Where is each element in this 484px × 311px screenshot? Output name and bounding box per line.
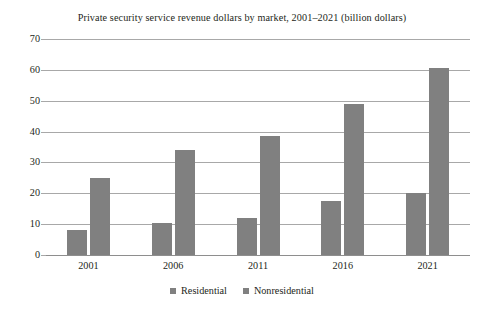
bar-group-2006 — [152, 39, 195, 255]
y-axis: 010203040506070 — [0, 39, 40, 255]
bar-nonresidential-2011 — [260, 136, 280, 255]
legend-item-nonresidential[interactable]: Nonresidential — [243, 286, 314, 296]
legend-swatch-icon — [170, 288, 176, 294]
bar-nonresidential-2021 — [429, 68, 449, 255]
legend-label: Residential — [181, 286, 227, 296]
bar-nonresidential-2016 — [344, 104, 364, 255]
x-tick-label-2006: 2006 — [133, 260, 213, 271]
y-tick-mark — [41, 224, 46, 225]
bar-group-2011 — [237, 39, 280, 255]
y-tick-mark — [41, 162, 46, 163]
y-tick-label: 60 — [6, 65, 40, 75]
gridline-0 — [46, 255, 470, 256]
legend-swatch-icon — [243, 288, 249, 294]
bar-group-2016 — [321, 39, 364, 255]
bar-residential-2016 — [321, 201, 341, 255]
bar-group-2021 — [406, 39, 449, 255]
bar-group-2001 — [67, 39, 110, 255]
x-tick-label-2001: 2001 — [48, 260, 128, 271]
chart-title: Private security service revenue dollars… — [0, 12, 484, 23]
y-tick-label: 20 — [6, 188, 40, 198]
bar-nonresidential-2001 — [90, 178, 110, 255]
y-tick-mark — [41, 70, 46, 71]
x-tick-label-2021: 2021 — [388, 260, 468, 271]
plot-area — [46, 39, 470, 255]
y-tick-label: 30 — [6, 157, 40, 167]
bar-residential-2006 — [152, 223, 172, 255]
bar-nonresidential-2006 — [175, 150, 195, 255]
bar-chart: Private security service revenue dollars… — [0, 0, 484, 311]
bar-residential-2021 — [406, 193, 426, 255]
y-tick-label: 70 — [6, 34, 40, 44]
bar-residential-2001 — [67, 230, 87, 255]
y-tick-label: 0 — [6, 250, 40, 260]
y-tick-label: 10 — [6, 219, 40, 229]
y-tick-mark — [41, 193, 46, 194]
legend-label: Nonresidential — [254, 286, 314, 296]
y-tick-mark — [41, 132, 46, 133]
legend-item-residential[interactable]: Residential — [170, 286, 227, 296]
y-tick-label: 40 — [6, 127, 40, 137]
chart-legend: ResidentialNonresidential — [0, 286, 484, 296]
x-tick-label-2016: 2016 — [303, 260, 383, 271]
x-tick-label-2011: 2011 — [218, 260, 298, 271]
y-tick-label: 50 — [6, 96, 40, 106]
y-tick-mark — [41, 101, 46, 102]
y-tick-mark — [41, 39, 46, 40]
bar-residential-2011 — [237, 218, 257, 255]
y-tick-mark — [41, 255, 46, 256]
